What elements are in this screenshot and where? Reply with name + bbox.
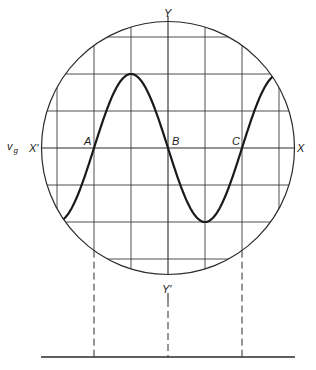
x-prime-axis-label: X' (28, 142, 39, 154)
x-axis-label: X (296, 142, 305, 154)
oscilloscope-diagram: Y Y' X' X vg A B C (0, 0, 316, 370)
y-axis-label: Y (164, 7, 172, 19)
point-label-c: C (232, 135, 240, 147)
diagram-canvas: Y Y' X' X vg A B C (0, 0, 316, 370)
point-label-a: A (83, 135, 91, 147)
signal-label: vg (7, 140, 19, 155)
point-label-b: B (172, 135, 179, 147)
signal-label-subscript: g (14, 146, 19, 155)
y-prime-axis-label: Y' (162, 283, 172, 295)
